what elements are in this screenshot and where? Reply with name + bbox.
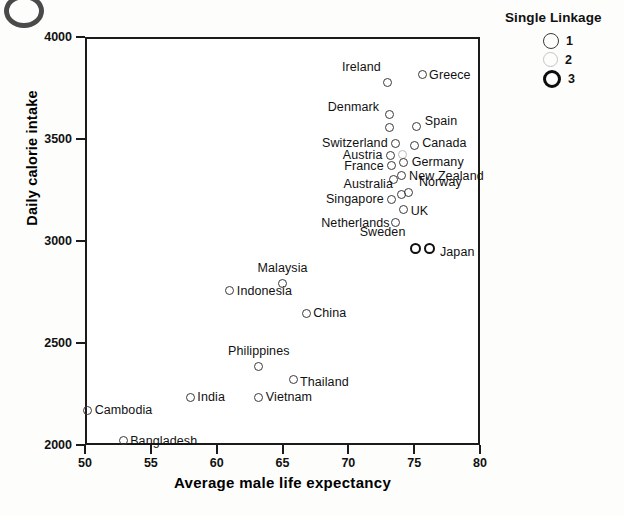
data-point-label: India bbox=[197, 391, 225, 404]
data-point-marker bbox=[399, 205, 408, 214]
data-point-label: Spain bbox=[425, 115, 457, 128]
data-point-label: Cambodia bbox=[95, 404, 153, 417]
data-point-label: Thailand bbox=[300, 375, 349, 388]
data-point-marker bbox=[254, 393, 263, 402]
legend-rows: 123 bbox=[505, 31, 620, 88]
data-point-label: Greece bbox=[429, 68, 471, 81]
x-tick-label: 80 bbox=[460, 456, 500, 470]
scan-artifact bbox=[4, 0, 44, 28]
data-point-label: Norway bbox=[419, 176, 462, 189]
x-tick-label: 55 bbox=[131, 456, 171, 470]
data-point-marker bbox=[410, 243, 421, 254]
x-tick-label: 60 bbox=[197, 456, 237, 470]
legend-title: Single Linkage bbox=[505, 10, 620, 25]
x-tick-label: 65 bbox=[263, 456, 303, 470]
data-point-marker bbox=[410, 141, 419, 150]
x-tick-mark bbox=[282, 445, 284, 454]
data-point-marker bbox=[397, 171, 406, 180]
data-point-marker bbox=[83, 406, 92, 415]
legend: Single Linkage 123 bbox=[505, 10, 620, 88]
x-tick-label: 50 bbox=[65, 456, 105, 470]
data-point-label: Denmark bbox=[328, 100, 379, 113]
data-point-label: Ireland bbox=[342, 61, 381, 74]
data-point-marker bbox=[418, 70, 427, 79]
data-point-label: Germany bbox=[412, 156, 464, 169]
data-point-label: China bbox=[313, 307, 346, 320]
y-tick-mark bbox=[76, 342, 85, 344]
y-tick-label: 2500 bbox=[0, 336, 72, 350]
data-point-label: Indonesia bbox=[237, 285, 292, 298]
legend-entry: 3 bbox=[505, 69, 620, 88]
legend-marker-icon bbox=[543, 70, 561, 88]
data-point-label: Sweden bbox=[360, 226, 406, 239]
data-point-label: Malaysia bbox=[257, 262, 307, 275]
legend-entry: 2 bbox=[505, 50, 620, 69]
x-tick-label: 70 bbox=[328, 456, 368, 470]
x-tick-mark bbox=[216, 445, 218, 454]
legend-entry-label: 2 bbox=[565, 53, 572, 67]
data-point-label: Canada bbox=[422, 137, 466, 150]
x-tick-mark bbox=[413, 445, 415, 454]
plot-area bbox=[85, 37, 480, 445]
data-point-label: Singapore bbox=[326, 193, 384, 206]
data-point-label: Japan bbox=[440, 246, 475, 259]
y-tick-label: 4000 bbox=[0, 30, 72, 44]
y-tick-mark bbox=[76, 36, 85, 38]
legend-entry: 1 bbox=[505, 31, 620, 50]
x-axis-title: Average male life expectancy bbox=[85, 474, 480, 491]
data-point-label: France bbox=[344, 159, 384, 172]
data-point-marker bbox=[391, 139, 400, 148]
data-point-marker bbox=[385, 123, 394, 132]
data-point-marker bbox=[186, 393, 195, 402]
legend-marker-icon bbox=[543, 52, 558, 67]
data-point-marker bbox=[385, 110, 394, 119]
y-axis-title: Daily calorie intake bbox=[24, 58, 40, 258]
y-tick-mark bbox=[76, 138, 85, 140]
x-tick-mark bbox=[84, 445, 86, 454]
data-point-marker bbox=[404, 188, 413, 197]
data-point-marker bbox=[302, 309, 311, 318]
y-tick-mark bbox=[76, 240, 85, 242]
data-point-label: Philippines bbox=[228, 345, 290, 358]
legend-marker-icon bbox=[543, 33, 559, 49]
data-point-label: UK bbox=[411, 205, 429, 218]
x-tick-mark bbox=[347, 445, 349, 454]
y-tick-label: 3000 bbox=[0, 234, 72, 248]
data-point-marker bbox=[387, 195, 396, 204]
legend-entry-label: 3 bbox=[568, 72, 575, 86]
y-tick-label: 3500 bbox=[0, 132, 72, 146]
data-point-marker bbox=[289, 375, 298, 384]
data-point-label: Australia bbox=[343, 178, 393, 191]
data-point-marker bbox=[386, 151, 395, 160]
y-tick-label: 2000 bbox=[0, 438, 72, 452]
legend-entry-label: 1 bbox=[566, 34, 573, 48]
x-tick-label: 75 bbox=[394, 456, 434, 470]
x-tick-mark bbox=[479, 445, 481, 454]
data-point-label: Bangladesh bbox=[130, 435, 197, 448]
data-point-label: Vietnam bbox=[266, 391, 312, 404]
data-point-marker bbox=[399, 158, 408, 167]
scatter-plot-figure: Daily calorie intake Average male life e… bbox=[0, 0, 624, 516]
